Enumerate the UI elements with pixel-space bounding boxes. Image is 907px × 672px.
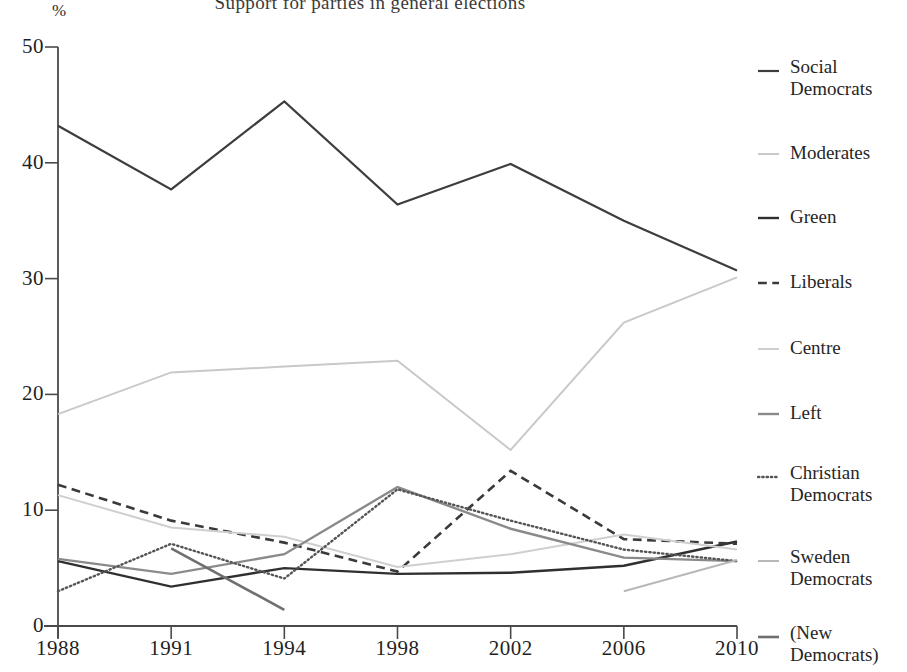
legend-label-christian-democrats: Christian Democrats: [790, 462, 872, 506]
legend-swatch-left-icon: [757, 403, 783, 421]
x-tick-label-1994: 1994: [224, 636, 344, 660]
legend-label-new-democrats: (New Democrats): [790, 622, 879, 666]
legend-swatch-new-democrats-icon: [757, 623, 783, 641]
legend-label-left: Left: [790, 402, 822, 424]
series-line-social-democrats: [58, 101, 737, 270]
x-tick-label-2002: 2002: [451, 636, 571, 660]
x-tick-label-1991: 1991: [111, 636, 231, 660]
chart-figure: Support for parties in general elections…: [0, 0, 907, 672]
legend-swatch-moderates-icon: [757, 143, 783, 161]
legend-item-christian-democrats[interactable]: Christian Democrats: [757, 462, 907, 506]
series-line-left: [58, 487, 737, 574]
legend-label-social-democrats: Social Democrats: [790, 56, 872, 100]
legend-swatch-green-icon: [757, 207, 783, 225]
legend-swatch-centre-icon: [757, 338, 783, 356]
legend-swatch-liberals-icon: [757, 272, 783, 290]
series-line-green: [58, 541, 737, 586]
legend-label-sweden-democrats: Sweden Democrats: [790, 546, 872, 590]
legend-item-new-democrats[interactable]: (New Democrats): [757, 622, 907, 666]
legend-label-moderates: Moderates: [790, 142, 870, 164]
legend-swatch-social-democrats-icon: [757, 57, 783, 75]
legend-item-green[interactable]: Green: [757, 206, 907, 228]
series-line-sweden-democrats: [624, 560, 737, 591]
legend-label-liberals: Liberals: [790, 271, 852, 293]
legend-item-liberals[interactable]: Liberals: [757, 271, 907, 293]
data-series-group: [58, 101, 737, 609]
legend-swatch-sweden-democrats-icon: [757, 547, 783, 565]
legend-item-moderates[interactable]: Moderates: [757, 142, 907, 164]
legend-item-left[interactable]: Left: [757, 402, 907, 424]
series-line-centre: [58, 495, 737, 567]
x-tick-label-2006: 2006: [564, 636, 684, 660]
x-tick-label-1998: 1998: [338, 636, 458, 660]
chart-legend: Social DemocratsModeratesGreenLiberalsCe…: [757, 34, 907, 668]
legend-swatch-christian-democrats-icon: [757, 463, 783, 481]
legend-item-sweden-democrats[interactable]: Sweden Democrats: [757, 546, 907, 590]
series-line-moderates: [58, 277, 737, 450]
legend-label-centre: Centre: [790, 337, 841, 359]
legend-item-social-democrats[interactable]: Social Democrats: [757, 56, 907, 100]
x-tick-label-1988: 1988: [0, 636, 118, 660]
legend-item-centre[interactable]: Centre: [757, 337, 907, 359]
legend-label-green: Green: [790, 206, 836, 228]
